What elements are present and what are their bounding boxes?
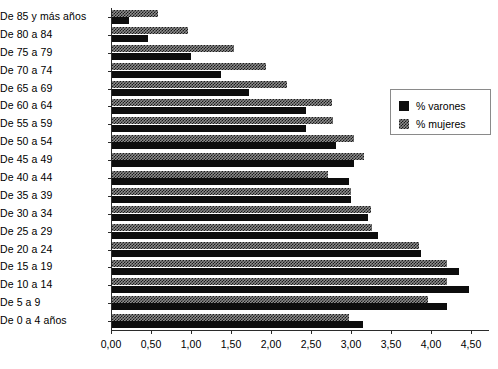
bar-mujeres — [112, 27, 188, 34]
bar-varones — [112, 286, 469, 293]
y-axis-tick — [108, 214, 112, 215]
y-axis-tick — [108, 178, 112, 179]
x-axis-tick — [471, 330, 472, 334]
y-axis-tick-label: De 50 a 54 — [0, 136, 104, 147]
bar-varones — [112, 107, 306, 114]
x-axis-tick-label: 2,00 — [249, 338, 293, 350]
y-axis-tick — [108, 267, 112, 268]
bar-mujeres — [112, 260, 447, 267]
bar-varones — [112, 250, 421, 257]
bar-varones — [112, 160, 354, 167]
y-axis-tick-label: De 85 y más años — [0, 11, 104, 22]
bar-varones — [112, 89, 249, 96]
bar-mujeres — [112, 10, 158, 17]
y-axis-tick — [108, 89, 112, 90]
y-axis-tick — [108, 232, 112, 233]
x-axis-tick — [351, 330, 352, 334]
bar-varones — [112, 232, 378, 239]
x-axis-tick-label: 1,50 — [209, 338, 253, 350]
bar-mujeres — [112, 153, 364, 160]
legend-swatch-varones-icon — [399, 101, 409, 111]
x-axis-tick-label: 1,00 — [169, 338, 213, 350]
bar-mujeres — [112, 242, 419, 249]
y-axis-tick — [108, 17, 112, 18]
bar-mujeres — [112, 224, 372, 231]
x-axis-tick-label: 3,00 — [329, 338, 373, 350]
bar-mujeres — [112, 135, 354, 142]
bar-varones — [112, 17, 129, 24]
y-axis-tick — [108, 53, 112, 54]
x-axis-tick — [271, 330, 272, 334]
bar-varones — [112, 303, 447, 310]
y-axis-tick-label: De 40 a 44 — [0, 172, 104, 183]
bar-mujeres — [112, 117, 333, 124]
bar-varones — [112, 53, 191, 60]
bar-varones — [112, 321, 363, 328]
legend-label: % mujeres — [416, 118, 466, 130]
bar-mujeres — [112, 81, 287, 88]
y-axis-tick-label: De 25 a 29 — [0, 226, 104, 237]
y-axis-tick-label: De 30 a 34 — [0, 208, 104, 219]
bar-varones — [112, 71, 221, 78]
y-axis-tick-label: De 70 a 74 — [0, 65, 104, 76]
y-axis-tick — [108, 35, 112, 36]
y-axis-tick — [108, 250, 112, 251]
bar-varones — [112, 125, 306, 132]
bar-mujeres — [112, 63, 266, 70]
legend-entry: % mujeres — [399, 117, 466, 131]
y-axis-tick-label: De 15 a 19 — [0, 261, 104, 272]
bar-varones — [112, 196, 351, 203]
x-axis-tick — [151, 330, 152, 334]
y-axis-tick — [108, 160, 112, 161]
x-axis-tick-label: 2,50 — [289, 338, 333, 350]
y-axis-tick-label: De 20 a 24 — [0, 244, 104, 255]
y-axis-category-labels: De 85 y más añosDe 80 a 84De 75 a 79De 7… — [0, 8, 108, 330]
y-axis-tick-label: De 0 a 4 años — [0, 315, 104, 326]
x-axis-tick-label: 0,00 — [89, 338, 133, 350]
x-axis-tick — [231, 330, 232, 334]
bar-varones — [112, 35, 148, 42]
bar-mujeres — [112, 99, 332, 106]
y-axis-tick — [108, 321, 112, 322]
y-axis-tick-label: De 10 a 14 — [0, 279, 104, 290]
bar-mujeres — [112, 314, 349, 321]
x-axis-line — [111, 330, 489, 331]
bar-varones — [112, 268, 459, 275]
bar-mujeres — [112, 206, 371, 213]
y-axis-tick — [108, 71, 112, 72]
bar-mujeres — [112, 278, 447, 285]
y-axis-tick-label: De 60 a 64 — [0, 100, 104, 111]
y-axis-tick-label: De 65 a 69 — [0, 83, 104, 94]
bar-mujeres — [112, 296, 428, 303]
y-axis-tick — [108, 106, 112, 107]
y-axis-tick-label: De 80 a 84 — [0, 29, 104, 40]
chart-legend: % varones% mujeres — [390, 89, 491, 135]
x-axis-tick-label: 0,50 — [129, 338, 173, 350]
bar-varones — [112, 178, 349, 185]
x-axis-tick — [431, 330, 432, 334]
x-axis-tick — [311, 330, 312, 334]
y-axis-tick-label: De 5 a 9 — [0, 297, 104, 308]
y-axis-tick — [108, 196, 112, 197]
y-axis-tick — [108, 303, 112, 304]
x-axis-tick — [191, 330, 192, 334]
x-axis-tick-label: 3,50 — [369, 338, 413, 350]
legend-swatch-mujeres-icon — [399, 119, 409, 129]
x-axis-tick — [391, 330, 392, 334]
bar-varones — [112, 142, 336, 149]
y-axis-tick — [108, 142, 112, 143]
legend-label: % varones — [416, 100, 466, 112]
population-pyramid-chart: De 85 y más añosDe 80 a 84De 75 a 79De 7… — [0, 0, 498, 369]
bar-mujeres — [112, 171, 328, 178]
legend-entry: % varones — [399, 99, 466, 113]
plot-area: 0,000,501,001,502,002,503,003,504,004,50 — [111, 8, 491, 330]
y-axis-tick-label: De 45 a 49 — [0, 154, 104, 165]
y-axis-tick-label: De 35 a 39 — [0, 190, 104, 201]
x-axis-tick-label: 4,00 — [409, 338, 453, 350]
x-axis-tick-label: 4,50 — [449, 338, 493, 350]
x-axis-tick — [111, 330, 112, 334]
bar-varones — [112, 214, 368, 221]
y-axis-tick — [108, 285, 112, 286]
y-axis-tick-label: De 75 a 79 — [0, 47, 104, 58]
bar-mujeres — [112, 188, 351, 195]
